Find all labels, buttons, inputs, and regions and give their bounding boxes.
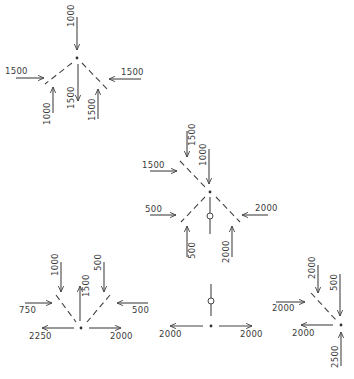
member-dashed-upper-left [311, 293, 336, 320]
force-label: 2000 [272, 303, 295, 313]
force-label: 2250 [29, 331, 52, 341]
force-label: 2000 [292, 328, 315, 338]
force-label: 2000 [221, 240, 231, 263]
member-dashed-right [82, 63, 107, 89]
diagram-node-center: 1500 1000 1500 500 2000 500 2000 [142, 123, 278, 263]
member-dashed-upper-left [56, 295, 76, 322]
force-label: 2000 [307, 256, 317, 279]
force-label: 2000 [240, 329, 263, 339]
force-label: 500 [187, 242, 197, 259]
force-label: 500 [329, 274, 339, 291]
force-label: 2000 [255, 203, 278, 213]
force-label: 1500 [187, 123, 197, 146]
force-label: 1500 [142, 160, 165, 170]
member-dashed-lower-right [216, 197, 240, 222]
diagram-node-bottom-right: 2000 500 2000 2000 2500 [272, 256, 342, 368]
force-label: 500 [145, 204, 162, 214]
force-label: 2500 [330, 345, 340, 368]
force-label: 1500 [66, 86, 76, 109]
diagram-node-bottom-middle: 2000 2000 [159, 284, 263, 339]
force-label: 2000 [110, 331, 133, 341]
node-dot [80, 327, 83, 330]
hinge-circle-icon [207, 213, 213, 219]
node-dot [210, 325, 213, 328]
hinge-circle-icon [208, 298, 214, 304]
force-label: 2000 [159, 329, 182, 339]
force-label: 1500 [121, 67, 144, 77]
node-dot [76, 57, 79, 60]
force-label: 1500 [87, 98, 97, 121]
member-dashed-upper-right [87, 295, 110, 322]
diagram-node-top-left: 1000 1500 1500 1000 1500 1500 [5, 4, 144, 125]
member-dashed-left [45, 63, 72, 84]
force-label: 500 [132, 305, 149, 315]
force-label: 750 [19, 305, 36, 315]
force-label: 1000 [66, 4, 76, 27]
force-label: 1000 [198, 143, 208, 166]
force-label: 1500 [5, 66, 28, 76]
node-dot [340, 324, 343, 327]
diagram-node-bottom-left: 1000 500 1500 750 500 2250 2000 [19, 253, 149, 341]
force-label: 500 [93, 254, 103, 271]
force-label: 1000 [50, 253, 60, 276]
force-diagram-canvas: 1000 1500 1500 1000 1500 1500 1500 1000 … [0, 0, 354, 379]
force-label: 1500 [81, 274, 91, 297]
member-dashed-lower-left [181, 197, 205, 222]
node-dot [209, 191, 212, 194]
force-label: 1000 [42, 102, 52, 125]
